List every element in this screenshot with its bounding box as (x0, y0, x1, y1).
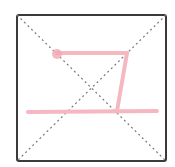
bottom-horizontal-stroke (28, 111, 157, 112)
character-practice-grid (0, 0, 175, 167)
stroke-start-dot-icon (52, 49, 62, 59)
